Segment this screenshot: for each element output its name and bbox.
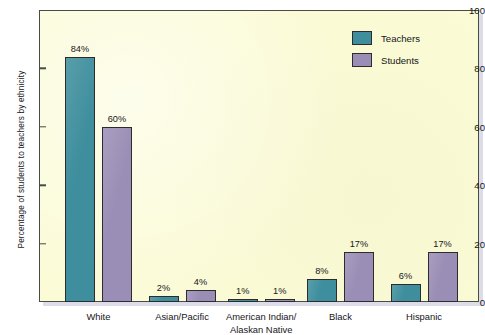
y-axis-title: Percentage of students to teachers by et… [17, 35, 26, 285]
bar-teachers-0[interactable] [65, 57, 95, 302]
bar-sheen [429, 253, 457, 301]
bar-sheen [103, 128, 131, 301]
bar-students-3[interactable] [344, 252, 374, 302]
bar-teachers-3[interactable] [307, 279, 337, 302]
legend-swatch-students [352, 53, 372, 67]
bar-sheen [266, 300, 294, 301]
bar-sheen [345, 253, 373, 301]
legend-label-students: Students [381, 55, 419, 66]
bar-students-2[interactable] [265, 299, 295, 302]
x-axis-label-2: American Indian/ Alaskan Native [226, 311, 296, 335]
bar-students-4[interactable] [428, 252, 458, 302]
bar-sheen [66, 58, 94, 301]
bar-value-label: 84% [71, 44, 89, 54]
bar-sheen [308, 280, 336, 301]
x-axis-label-3: Black [329, 311, 352, 324]
x-axis-label-4: Hispanic [406, 311, 442, 324]
bar-value-label: 2% [157, 283, 170, 293]
legend-item-teachers[interactable]: Teachers [352, 31, 420, 45]
bar-value-label: 6% [399, 271, 412, 281]
bar-value-label: 1% [236, 286, 249, 296]
bar-teachers-1[interactable] [149, 296, 179, 302]
bar-value-label: 17% [350, 239, 368, 249]
bar-sheen [229, 300, 257, 301]
bar-teachers-2[interactable] [228, 299, 258, 302]
bar-teachers-4[interactable] [391, 284, 421, 302]
bar-sheen [187, 291, 215, 301]
bar-sheen [392, 285, 420, 301]
legend: Teachers Students [352, 31, 420, 75]
bar-sheen [150, 297, 178, 301]
x-axis-label-0: White [86, 311, 110, 324]
x-axis-label-1: Asian/Pacific [155, 311, 209, 324]
legend-label-teachers: Teachers [381, 33, 420, 44]
bar-students-1[interactable] [186, 290, 216, 302]
bar-value-label: 4% [194, 277, 207, 287]
bar-chart: Percentage of students to teachers by et… [0, 0, 485, 335]
bar-students-0[interactable] [102, 127, 132, 302]
bar-value-label: 1% [273, 286, 286, 296]
legend-swatch-teachers [352, 31, 372, 45]
bar-value-label: 60% [108, 114, 126, 124]
bar-value-label: 17% [433, 239, 451, 249]
legend-item-students[interactable]: Students [352, 53, 420, 67]
bar-value-label: 8% [315, 266, 328, 276]
